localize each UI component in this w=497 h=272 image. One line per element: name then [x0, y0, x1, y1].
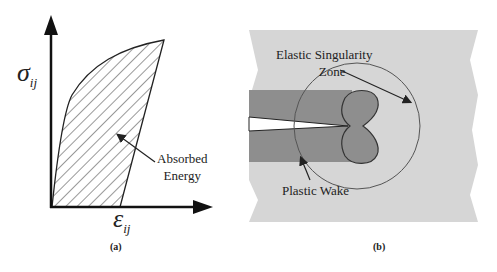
y-axis-label: σij [17, 58, 37, 91]
absorbed-label-line2: Energy [157, 167, 208, 184]
y-axis-arrow-icon [44, 15, 58, 35]
x-axis-label: εij [113, 204, 130, 237]
diagram-canvas [0, 0, 497, 272]
plastic-wake-label: Plastic Wake [282, 183, 349, 199]
epsilon-subscript: ij [123, 221, 130, 236]
panel-b-caption: (b) [373, 241, 385, 252]
absorbed-energy-label: Absorbed Energy [157, 150, 208, 184]
absorbed-energy-region [52, 40, 164, 207]
sigma-subscript: ij [30, 75, 37, 90]
panel-a-caption: (a) [110, 241, 122, 252]
elastic-label-line1: Elastic Singularity [276, 46, 372, 63]
x-axis-arrow-icon [193, 200, 213, 214]
panel-a-stress-strain [44, 15, 213, 214]
epsilon-symbol: ε [113, 204, 123, 233]
elastic-label-line2: Zone [276, 63, 372, 80]
elastic-singularity-label: Elastic Singularity Zone [276, 46, 372, 80]
absorbed-label-line1: Absorbed [157, 150, 208, 167]
sigma-symbol: σ [17, 58, 30, 87]
